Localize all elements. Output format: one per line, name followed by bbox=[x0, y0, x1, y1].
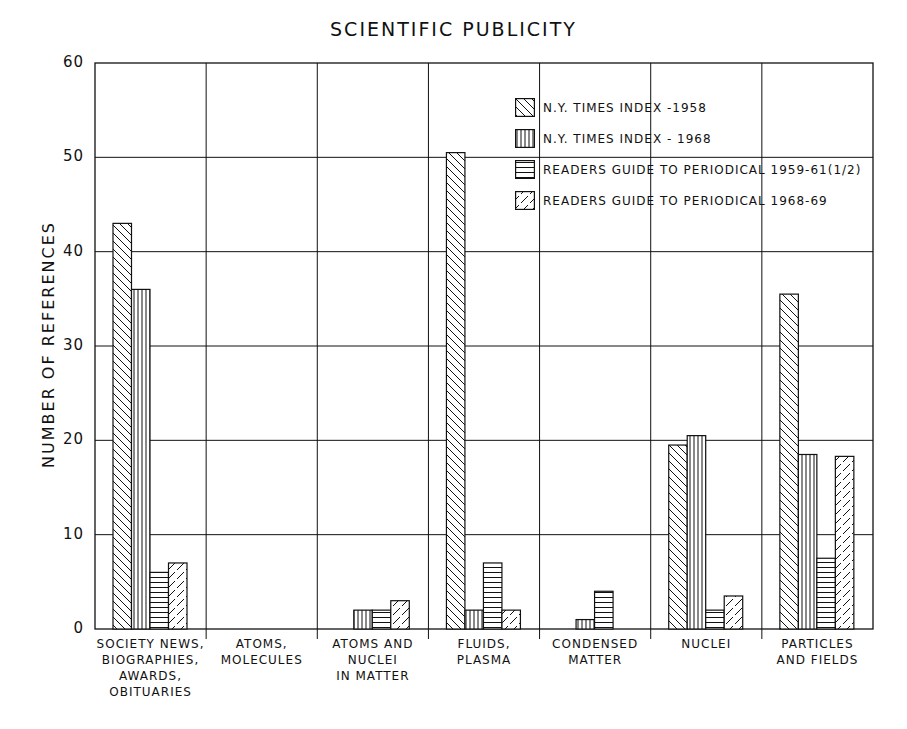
legend-item: N.Y. TIMES INDEX -1958 bbox=[515, 92, 861, 123]
bar bbox=[835, 456, 854, 629]
x-tick-label: NUCLEI bbox=[651, 636, 761, 652]
legend-swatch-icon bbox=[515, 129, 535, 148]
legend-swatch-icon bbox=[515, 160, 535, 179]
x-tick-label: CONDENSED MATTER bbox=[540, 636, 650, 668]
bar bbox=[780, 294, 799, 629]
legend-item: READERS GUIDE TO PERIODICAL 1968-69 bbox=[515, 185, 861, 216]
legend-item: N.Y. TIMES INDEX - 1968 bbox=[515, 123, 861, 154]
bar bbox=[446, 153, 465, 629]
x-tick-label: ATOMS, MOLECULES bbox=[207, 636, 317, 668]
bar bbox=[687, 436, 706, 629]
legend: N.Y. TIMES INDEX -1958N.Y. TIMES INDEX -… bbox=[515, 92, 861, 216]
legend-swatch-icon bbox=[515, 191, 535, 210]
x-tick-label: PARTICLES AND FIELDS bbox=[762, 636, 872, 668]
bar bbox=[817, 558, 836, 629]
bar bbox=[169, 563, 188, 629]
bar bbox=[576, 620, 595, 629]
bar bbox=[391, 601, 410, 629]
legend-label: N.Y. TIMES INDEX - 1968 bbox=[543, 132, 712, 146]
legend-label: READERS GUIDE TO PERIODICAL 1959-61(1/2) bbox=[543, 163, 861, 177]
legend-label: READERS GUIDE TO PERIODICAL 1968-69 bbox=[543, 194, 828, 208]
bar bbox=[372, 610, 391, 629]
bar bbox=[669, 445, 688, 629]
legend-swatch-icon bbox=[515, 98, 535, 117]
bar bbox=[354, 610, 373, 629]
bar bbox=[465, 610, 484, 629]
bar bbox=[150, 572, 169, 629]
bar bbox=[706, 610, 725, 629]
bar bbox=[132, 289, 151, 629]
x-tick-label: FLUIDS, PLASMA bbox=[429, 636, 539, 668]
bar bbox=[798, 454, 817, 629]
legend-item: READERS GUIDE TO PERIODICAL 1959-61(1/2) bbox=[515, 154, 861, 185]
legend-label: N.Y. TIMES INDEX -1958 bbox=[543, 101, 707, 115]
x-tick-label: ATOMS AND NUCLEI IN MATTER bbox=[318, 636, 428, 684]
bar bbox=[113, 223, 132, 629]
bar bbox=[595, 591, 614, 629]
bar bbox=[502, 610, 521, 629]
bar bbox=[483, 563, 502, 629]
x-tick-label: SOCIETY NEWS, BIOGRAPHIES, AWARDS, OBITU… bbox=[96, 636, 206, 700]
bar bbox=[724, 596, 743, 629]
